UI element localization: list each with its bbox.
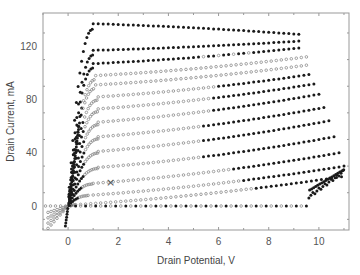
data-point-filled: [287, 98, 290, 101]
data-point-filled: [107, 61, 110, 64]
data-point-filled: [75, 145, 78, 148]
data-point-filled: [297, 85, 300, 88]
data-point-hollow: [177, 186, 180, 189]
data-point-filled: [257, 42, 260, 45]
data-point-filled: [277, 174, 280, 177]
y-tick-label: 0: [31, 201, 37, 212]
data-point-filled: [277, 100, 280, 103]
data-point-filled: [287, 86, 290, 89]
data-point-filled: [212, 97, 215, 100]
data-point-filled: [78, 142, 81, 145]
data-point-filled: [312, 94, 315, 97]
data-point-filled: [64, 222, 67, 225]
data-point-filled: [282, 87, 285, 90]
data-point-hollow: [97, 182, 100, 185]
data-point-filled: [307, 140, 310, 143]
data-point-filled: [222, 136, 225, 139]
data-point-filled: [152, 24, 155, 27]
data-point-hollow: [190, 205, 193, 208]
data-point-filled: [102, 23, 105, 26]
data-point-hollow: [275, 59, 278, 62]
data-point-filled: [164, 205, 167, 208]
data-point-filled: [227, 95, 230, 98]
data-point-hollow: [47, 227, 50, 230]
data-point-hollow: [210, 66, 213, 69]
data-point-hollow: [125, 200, 128, 203]
data-point-filled: [82, 130, 85, 133]
data-point-filled: [222, 54, 225, 57]
data-point-filled: [252, 81, 255, 84]
data-point-hollow: [132, 118, 135, 121]
data-point-filled: [202, 155, 205, 158]
data-point-hollow: [102, 95, 105, 98]
data-point-filled: [242, 82, 245, 85]
data-point-filled: [300, 181, 303, 184]
data-point-filled: [262, 116, 265, 119]
data-point-filled: [292, 126, 295, 129]
data-point-hollow: [192, 185, 195, 188]
data-point-filled: [185, 205, 188, 208]
data-point-hollow: [172, 143, 175, 146]
data-point-filled: [322, 154, 325, 157]
data-point-filled: [152, 47, 155, 50]
data-point-filled: [77, 165, 80, 168]
data-point-hollow: [185, 195, 188, 198]
data-point-filled: [237, 93, 240, 96]
data-point-hollow: [150, 205, 153, 208]
data-point-hollow: [59, 205, 62, 208]
data-point-filled: [65, 216, 68, 219]
data-point-filled: [252, 91, 255, 94]
data-point-hollow: [167, 143, 170, 146]
data-point-filled: [287, 76, 290, 79]
data-point-filled: [117, 23, 120, 26]
data-point-filled: [262, 147, 265, 150]
data-point-hollow: [202, 87, 205, 90]
data-point-hollow: [94, 202, 97, 205]
data-point-filled: [162, 25, 165, 28]
data-point-hollow: [132, 163, 135, 166]
data-point-hollow: [210, 75, 213, 78]
data-point-filled: [252, 178, 255, 181]
data-point-filled: [272, 100, 275, 103]
data-point-filled: [187, 56, 190, 59]
data-point-hollow: [152, 92, 155, 95]
data-point-hollow: [230, 190, 233, 193]
data-point-hollow: [202, 171, 205, 174]
data-point-hollow: [232, 180, 235, 183]
data-point-hollow: [162, 160, 165, 163]
data-point-filled: [317, 138, 320, 141]
data-point-hollow: [152, 131, 155, 134]
data-point-hollow: [197, 140, 200, 143]
data-point-filled: [252, 30, 255, 33]
data-point-filled: [82, 84, 85, 87]
data-point-hollow: [255, 70, 258, 73]
data-point-filled: [78, 122, 81, 125]
data-point-filled: [307, 156, 310, 159]
data-point-hollow: [127, 179, 130, 182]
data-point-filled: [132, 24, 135, 27]
data-point-hollow: [222, 169, 225, 172]
data-point-hollow: [250, 62, 253, 65]
data-point-filled: [192, 56, 195, 59]
data-point-filled: [307, 73, 310, 76]
data-points: [44, 22, 345, 230]
data-point-hollow: [220, 74, 223, 77]
data-point-hollow: [170, 69, 173, 72]
data-point-filled: [157, 47, 160, 50]
data-point-hollow: [187, 88, 190, 91]
data-point-filled: [212, 44, 215, 47]
data-point-hollow: [240, 72, 243, 75]
data-point-hollow: [155, 197, 158, 200]
data-point-filled: [77, 85, 80, 88]
data-point-filled: [267, 115, 270, 118]
data-point-filled: [312, 139, 315, 142]
data-point-hollow: [260, 205, 263, 208]
data-point-filled: [327, 181, 330, 184]
data-point-filled: [237, 83, 240, 86]
data-point-filled: [247, 81, 250, 84]
data-point-hollow: [97, 136, 100, 139]
data-point-hollow: [152, 145, 155, 148]
data-point-hollow: [197, 156, 200, 159]
data-point-hollow: [147, 177, 150, 180]
data-point-hollow: [182, 158, 185, 161]
